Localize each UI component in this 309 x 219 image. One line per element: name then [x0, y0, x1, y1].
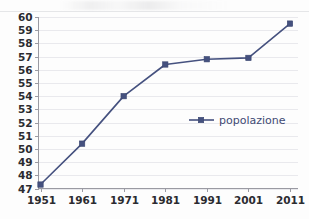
- population-series-line: [41, 24, 291, 185]
- data-point-1971: [121, 93, 126, 98]
- y-label-60: 60: [18, 11, 33, 23]
- y-label-59: 59: [18, 24, 33, 36]
- y-label-53: 53: [18, 103, 33, 115]
- x-axis-labels: 1951196119711981199120012011: [27, 194, 305, 206]
- x-label-1981: 1981: [151, 194, 180, 206]
- y-label-55: 55: [18, 77, 33, 89]
- x-label-2001: 2001: [234, 194, 263, 206]
- x-label-1961: 1961: [68, 194, 97, 206]
- x-label-2011: 2011: [276, 194, 305, 206]
- data-point-2011: [287, 21, 292, 26]
- data-point-1961: [79, 141, 84, 146]
- y-label-51: 51: [18, 130, 33, 142]
- x-label-1971: 1971: [110, 194, 139, 206]
- y-label-49: 49: [18, 156, 33, 168]
- data-point-1991: [204, 57, 209, 62]
- x-label-1991: 1991: [193, 194, 222, 206]
- legend-label-popolazione: popolazione: [219, 114, 286, 127]
- y-label-52: 52: [18, 117, 33, 129]
- y-label-54: 54: [18, 90, 33, 102]
- y-label-48: 48: [18, 169, 33, 181]
- y-label-56: 56: [18, 64, 33, 76]
- y-label-58: 58: [18, 37, 33, 49]
- y-label-57: 57: [18, 51, 33, 63]
- gridline-group: [39, 18, 299, 190]
- legend-marker-swatch: [198, 117, 203, 122]
- x-label-1951: 1951: [27, 194, 56, 206]
- data-point-1951: [38, 182, 43, 187]
- y-axis-labels: 4748495051525354555657585960: [18, 11, 33, 195]
- chart-canvas: 4748495051525354555657585960 19511961197…: [0, 0, 309, 219]
- chart-legend: popolazione: [189, 114, 286, 127]
- data-point-2001: [246, 55, 251, 60]
- y-label-50: 50: [18, 143, 33, 155]
- data-point-1981: [163, 62, 168, 67]
- population-line-chart: 4748495051525354555657585960 19511961197…: [0, 0, 309, 219]
